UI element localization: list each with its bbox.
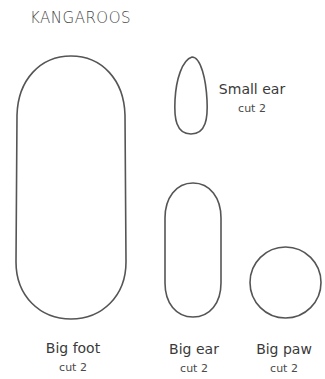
piece-cut-count: cut 2 (163, 361, 225, 376)
template-shapes (0, 0, 325, 379)
big-foot-label: Big foot cut 2 (36, 340, 110, 375)
small-ear-label: Small ear cut 2 (216, 81, 288, 116)
piece-name: Small ear (216, 81, 288, 98)
big-foot-outline (16, 56, 126, 319)
big-ear-label: Big ear cut 2 (163, 341, 225, 376)
piece-name: Big ear (163, 341, 225, 358)
piece-cut-count: cut 2 (252, 361, 316, 376)
big-paw-label: Big paw cut 2 (252, 341, 316, 376)
big-ear-outline (165, 183, 221, 317)
big-paw-outline (250, 247, 321, 318)
piece-cut-count: cut 2 (216, 101, 288, 116)
piece-name: Big foot (36, 340, 110, 357)
small-ear-outline (175, 57, 207, 134)
piece-cut-count: cut 2 (36, 360, 110, 375)
piece-name: Big paw (252, 341, 316, 358)
